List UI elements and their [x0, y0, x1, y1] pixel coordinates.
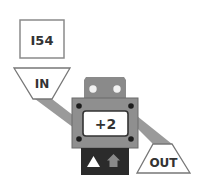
machine-body: +2	[72, 98, 138, 148]
machine-control-base	[81, 148, 129, 175]
machine-top-plate	[84, 77, 126, 99]
outbox-label: OUT	[149, 156, 178, 170]
input-value-box[interactable]: I54	[20, 20, 64, 58]
outbox-funnel: OUT	[137, 144, 190, 173]
input-value-text: I54	[31, 33, 54, 48]
top-hole-left	[89, 85, 96, 92]
output-conveyor	[137, 116, 172, 144]
top-hole-right	[113, 85, 120, 92]
machine-diagram: I54 IN +2 OUT	[0, 0, 201, 191]
inbox-funnel: IN	[14, 68, 70, 99]
screw-icon	[76, 136, 82, 142]
inbox-label: IN	[35, 77, 50, 91]
screw-icon	[128, 136, 134, 142]
input-conveyor	[35, 99, 74, 128]
screw-icon	[76, 103, 82, 109]
operator-label: +2	[95, 116, 116, 132]
screw-icon	[128, 103, 134, 109]
